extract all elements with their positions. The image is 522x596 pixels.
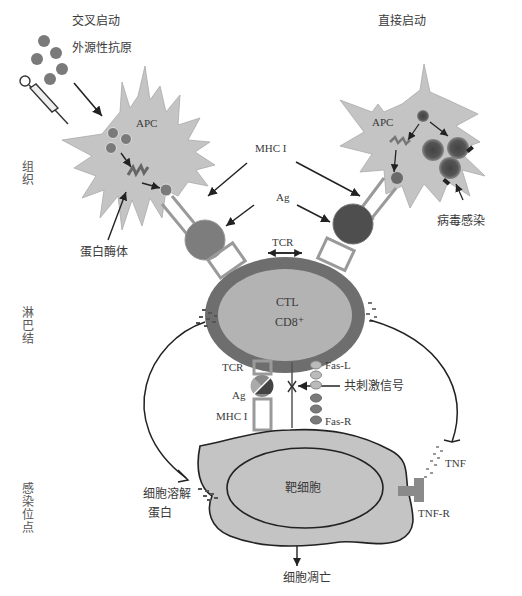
perforin-label-line2: 蛋白 xyxy=(148,507,172,519)
left-apc-cell xyxy=(62,66,215,230)
fas-r-beads xyxy=(311,394,322,424)
fas-l-label: Fas-L xyxy=(325,360,351,371)
synapse-mhc-label: MHC I xyxy=(216,411,247,422)
lymph-node-label: 淋巴结 xyxy=(20,306,32,345)
tnf-r-label: TNF-R xyxy=(418,508,450,519)
ctl-activation-diagram: 交叉启动 直接启动 组织 淋巴结 感染位点 外源性抗原 APC 蛋白酶体 APC… xyxy=(0,0,522,596)
target-cell-label: 靶细胞 xyxy=(285,482,321,494)
synapse-antigen xyxy=(251,375,274,397)
ctl-label: CTL xyxy=(276,296,299,308)
right-apc-cell xyxy=(340,64,485,208)
left-apc-label: APC xyxy=(136,118,157,129)
mhc-i-label: MHC I xyxy=(255,143,286,154)
perforin-label-line1: 细胞溶解 xyxy=(143,488,191,500)
syringe-icon xyxy=(20,76,68,124)
apoptosis-label: 细胞凋亡 xyxy=(283,572,331,584)
direct-priming-header: 直接启动 xyxy=(378,15,426,27)
synapse-ag-label: Ag xyxy=(232,390,245,401)
ag-label: Ag xyxy=(276,192,289,203)
tnf-particles xyxy=(424,446,443,478)
tcr-top-label: TCR xyxy=(272,237,293,248)
proteasome-label: 蛋白酶体 xyxy=(80,246,128,258)
infection-site-label: 感染位点 xyxy=(20,482,32,534)
fas-l-beads xyxy=(311,361,322,389)
perforin-granules-right xyxy=(366,302,377,322)
cross-priming-header: 交叉启动 xyxy=(72,15,120,27)
synapse-mhc xyxy=(254,399,271,430)
tnf-label: TNF xyxy=(445,458,466,469)
costimulatory-signal-label: 共刺激信号 xyxy=(344,380,404,392)
synapse-tcr-label: TCR xyxy=(222,362,243,373)
right-antigen xyxy=(333,204,373,244)
exogenous-antigen-label: 外源性抗原 xyxy=(72,42,132,54)
fas-r-label: Fas-R xyxy=(325,416,351,427)
virus-infection-label: 病毒感染 xyxy=(437,215,485,227)
exogenous-antigen-icon xyxy=(31,35,68,85)
right-apc-label: APC xyxy=(372,117,393,128)
tissue-label: 组织 xyxy=(20,160,32,186)
cd8-label: CD8⁺ xyxy=(275,316,304,328)
